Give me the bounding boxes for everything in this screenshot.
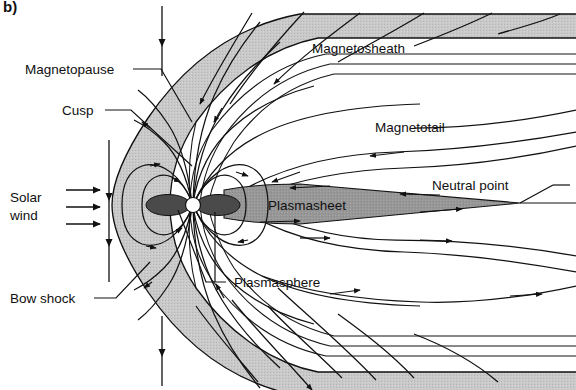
label-solar-wind-line1: Solar <box>10 190 42 205</box>
magnetosphere-diagram: b) Magnetopause Cusp Solar wind Bow shoc… <box>0 0 576 390</box>
label-bow-shock: Bow shock <box>10 291 76 306</box>
label-solar-wind-line2: wind <box>9 208 38 223</box>
panel-label: b) <box>3 0 17 15</box>
label-magnetopause: Magnetopause <box>25 62 114 77</box>
label-plasmasheet: Plasmasheet <box>268 198 346 213</box>
earth-body <box>186 198 201 213</box>
solar-wind-arrows <box>66 190 100 224</box>
leader-neutral-point-2 <box>520 185 553 203</box>
label-neutral-point: Neutral point <box>432 178 509 193</box>
label-magnetotail: Magnetotail <box>375 120 445 135</box>
label-plasmasphere: Plasmasphere <box>234 275 320 290</box>
label-magnetosheath: Magnetosheath <box>312 41 405 56</box>
label-cusp: Cusp <box>62 103 94 118</box>
